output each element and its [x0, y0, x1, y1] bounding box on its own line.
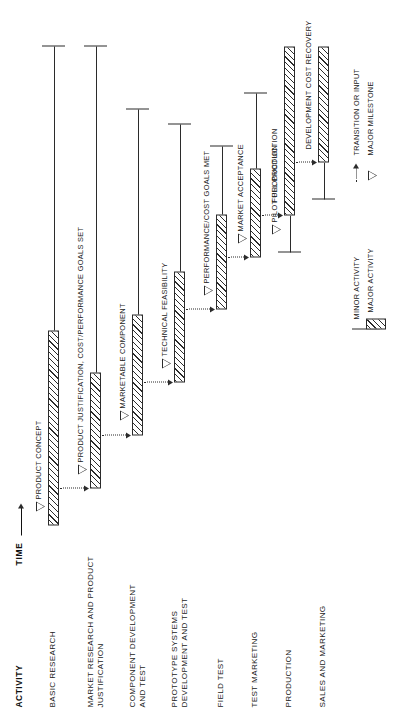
row-label-market-research: MARKET RESEARCH AND PRODUCT JUSTIFICATIO… — [86, 556, 106, 707]
transition-basic-to-market-arrow-icon — [84, 485, 89, 491]
milestone-marker-marketable-component — [120, 410, 129, 420]
row-label-field-test: FIELD TEST — [216, 658, 226, 707]
time-axis-line — [21, 507, 22, 535]
milestone-marker-pilot-production — [272, 224, 281, 234]
bar-sales-and-marketing — [318, 46, 329, 162]
transition-field-to-testmkt-arrow-icon — [244, 254, 249, 260]
legend-symbol-major-activity — [366, 318, 386, 329]
time-axis-arrow-icon — [18, 503, 24, 508]
bar-market-research — [90, 372, 101, 488]
minor-end-tick-component-development — [126, 108, 149, 109]
milestone-marker-product-justification — [78, 464, 87, 474]
legend-symbol-transition-input — [356, 167, 357, 181]
minor-end-tick-prototype-systems — [168, 123, 191, 124]
transition-basic-to-market-vertical — [60, 487, 84, 488]
milestone-label-product-justification: PRODUCT JUSTIFICATION, COST/PERFORMANCE … — [76, 226, 85, 462]
row-label-line: MARKET RESEARCH AND PRODUCT — [86, 556, 96, 707]
row-label-line: JUSTIFICATION — [96, 556, 106, 707]
milestone-label-product-concept: PRODUCT CONCEPT — [34, 420, 43, 499]
minor-line-market-research — [96, 46, 97, 372]
milestone-label-technical-feasibility: TECHNICAL FEASIBILITY — [160, 262, 169, 356]
milestone-marker-market-acceptance — [238, 233, 247, 243]
transition-prototype-to-field-arrow-icon — [210, 306, 215, 312]
minor-start-tick-sales-and-marketing — [312, 198, 335, 199]
legend-label-major-activity: MAJOR ACTIVITY — [366, 248, 375, 312]
legend-label-transition-input: TRANSITION OR INPUT — [352, 68, 361, 155]
transition-prototype-to-field-vertical — [186, 308, 210, 309]
transition-production-to-sales-vertical — [296, 161, 312, 162]
milestone-marker-product-concept — [36, 501, 45, 511]
row-label-line: TEST MARKETING — [250, 631, 260, 707]
row-label-basic-research: BASIC RESEARCH — [48, 631, 58, 707]
legend-label-minor-activity: MINOR ACTIVITY — [352, 256, 361, 319]
minor-line-production — [290, 215, 291, 252]
bar-field-test — [216, 214, 227, 309]
transition-market-to-component-vertical — [102, 434, 126, 435]
row-label-production: PRODUCTION — [284, 649, 294, 707]
row-label-line: PRODUCTION — [284, 649, 294, 707]
time-axis-label: TIME — [14, 542, 24, 565]
row-label-line: PROTOTYPE SYSTEMS — [170, 597, 180, 707]
minor-start-tick-production — [278, 251, 301, 252]
transition-field-to-testmkt-vertical — [228, 256, 244, 257]
transition-market-to-component-arrow-icon — [126, 432, 131, 438]
minor-line-sales-and-marketing — [324, 162, 325, 199]
minor-line-component-development — [138, 109, 139, 314]
row-label-line: FIELD TEST — [216, 658, 226, 707]
bar-basic-research — [48, 330, 59, 525]
bar-prototype-systems — [174, 271, 185, 382]
milestone-label-full-production: FULL PRODUCTION — [270, 128, 279, 202]
transition-component-to-prototype-vertical — [144, 381, 168, 382]
row-label-sales-and-marketing: SALES AND MARKETING — [318, 605, 328, 707]
milestone-label-market-acceptance: MARKET ACCEPTANCE — [236, 144, 245, 231]
row-label-line: COMPONENT DEVELOPMENT — [128, 584, 138, 707]
minor-end-tick-field-test — [210, 145, 233, 146]
minor-line-prototype-systems — [180, 124, 181, 271]
minor-end-tick-market-research — [84, 45, 107, 46]
row-label-line: SALES AND MARKETING — [318, 605, 328, 707]
milestone-label-performance-cost-goals: PERFORMANCE/COST GOALS MET — [202, 150, 211, 283]
gantt-chart: ACTIVITY TIME BASIC RESEARCH MARKET RESE… — [0, 0, 394, 721]
bar-component-development — [132, 314, 143, 435]
activity-header: ACTIVITY — [14, 664, 24, 707]
row-label-test-marketing: TEST MARKETING — [250, 631, 260, 707]
transition-component-to-prototype-arrow-icon — [168, 379, 173, 385]
row-label-line: DEVELOPMENT AND TEST — [180, 597, 190, 707]
milestone-marker-technical-feasibility — [162, 358, 171, 368]
row-label-line: BASIC RESEARCH — [48, 631, 58, 707]
minor-end-tick-basic-research — [42, 45, 65, 46]
legend-symbol-major-milestone — [368, 170, 377, 180]
milestone-marker-performance-cost-goals — [204, 285, 213, 295]
minor-line-basic-research — [54, 46, 55, 330]
bar-test-marketing — [250, 168, 261, 257]
row-label-line: AND TEST — [138, 584, 148, 707]
legend-transition-arrow-icon — [353, 163, 359, 168]
row-label-component-development: COMPONENT DEVELOPMENT AND TEST — [128, 584, 148, 707]
bar-production — [284, 46, 295, 215]
transition-production-to-sales-arrow-icon — [312, 159, 317, 165]
minor-line-field-test — [222, 146, 223, 214]
minor-end-tick-test-marketing — [244, 92, 267, 93]
milestone-label-development-cost-recovery: DEVELOPMENT COST RECOVERY — [304, 20, 313, 149]
page-root: ACTIVITY TIME BASIC RESEARCH MARKET RESE… — [0, 0, 394, 721]
row-label-prototype-systems: PROTOTYPE SYSTEMS DEVELOPMENT AND TEST — [170, 597, 190, 707]
legend-label-major-milestone: MAJOR MILESTONE — [366, 81, 375, 155]
milestone-label-marketable-component: MARKETABLE COMPONENT — [118, 303, 127, 408]
minor-line-test-marketing — [256, 93, 257, 168]
